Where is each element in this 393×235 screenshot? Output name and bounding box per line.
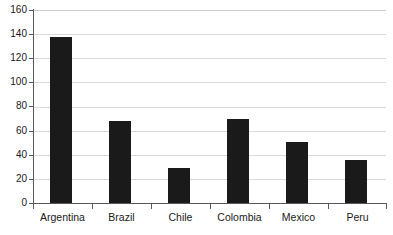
- gridline-160: [33, 10, 386, 11]
- x-tick-sep-4: [269, 204, 270, 209]
- bar-peru: [345, 160, 367, 203]
- y-tick-label-100: 100: [3, 77, 27, 87]
- gridline-100: [33, 82, 386, 83]
- x-label-brazil: Brazil: [92, 211, 151, 224]
- x-tick-sep-3: [210, 204, 211, 209]
- bar-mexico: [286, 142, 308, 204]
- x-tick-sep-6: [386, 204, 387, 209]
- x-label-argentina: Argentina: [33, 211, 92, 224]
- y-tick-label-140: 140: [3, 29, 27, 39]
- x-label-chile: Chile: [151, 211, 210, 224]
- bar-brazil: [109, 121, 131, 203]
- gridline-120: [33, 58, 386, 59]
- x-label-mexico: Mexico: [269, 211, 328, 224]
- y-tick-label-120: 120: [3, 53, 27, 63]
- x-tick-sep-2: [151, 204, 152, 209]
- y-tick-label-20: 20: [3, 174, 27, 184]
- y-tick-label-80: 80: [3, 101, 27, 111]
- x-label-peru: Peru: [328, 211, 387, 224]
- y-tick-label-0: 0: [3, 198, 27, 208]
- gridline-140: [33, 34, 386, 35]
- gridline-20: [33, 179, 386, 180]
- bar-colombia: [227, 119, 249, 203]
- x-tick-sep-0: [33, 204, 34, 209]
- y-tick-label-40: 40: [3, 150, 27, 160]
- x-tick-sep-5: [328, 204, 329, 209]
- plot-area: [33, 10, 386, 203]
- bar-chart: 160 140 120 100 80 60 40 20 0: [0, 0, 393, 235]
- x-axis-category-labels: Argentina Brazil Chile Colombia Mexico P…: [33, 211, 386, 227]
- bar-chile: [168, 168, 190, 203]
- y-axis-line: [33, 9, 34, 204]
- y-tick-label-160: 160: [3, 5, 27, 15]
- gridline-80: [33, 107, 386, 108]
- gridline-60: [33, 131, 386, 132]
- x-tick-sep-1: [92, 204, 93, 209]
- y-tick-label-60: 60: [3, 126, 27, 136]
- x-label-colombia: Colombia: [210, 211, 269, 224]
- gridline-40: [33, 155, 386, 156]
- y-axis-tick-labels: 160 140 120 100 80 60 40 20 0: [0, 0, 27, 235]
- bar-argentina: [50, 37, 72, 204]
